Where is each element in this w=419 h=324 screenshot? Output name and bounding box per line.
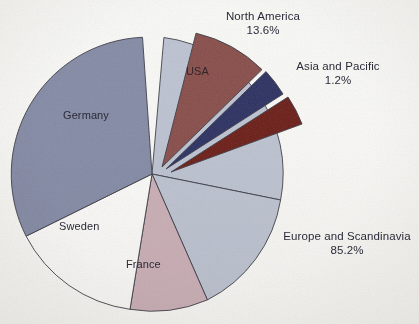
callout-north-america-name: North America [226,10,300,22]
slice-label-sweden: Sweden [59,220,99,234]
callout-europe-scandinavia: Europe and Scandinavia 85.2% [279,230,415,257]
callout-north-america: North America 13.6% [206,10,320,37]
callout-asia-pacific: Asia and Pacific 1.2% [274,60,402,87]
callout-north-america-percent: 13.6% [206,24,320,38]
callout-europe-scandinavia-percent: 85.2% [279,244,415,258]
callout-asia-pacific-percent: 1.2% [274,74,402,88]
callout-europe-scandinavia-name: Europe and Scandinavia [283,230,411,242]
pie-label-layer: North America 13.6% Asia and Pacific 1.2… [0,0,419,324]
slice-label-germany: Germany [63,109,109,123]
pie-chart-figure: North America 13.6% Asia and Pacific 1.2… [0,0,419,324]
callout-asia-pacific-name: Asia and Pacific [296,60,379,72]
slice-label-usa: USA [186,65,209,79]
slice-label-france: France [126,258,161,272]
